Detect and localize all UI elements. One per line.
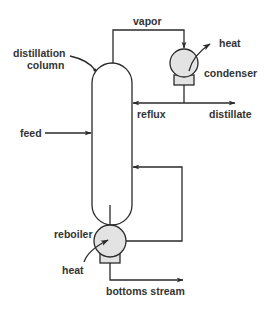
reboiler [94,225,126,257]
bottoms-stream-line [110,263,183,280]
condenser-heat-label: heat [219,37,241,49]
distillation-diagram: vapor distillation column heat condenser… [0,0,269,309]
reboiler-return-line [126,167,182,241]
reflux-label: reflux [137,108,166,120]
feed-label: feed [20,127,42,139]
condenser [170,49,198,77]
column-pointer-line [70,56,95,70]
column-pointer-dot [93,68,96,71]
reboiler-label: reboiler [54,228,93,240]
reboiler-heat-label: heat [62,264,84,276]
vapor-label: vapor [133,15,162,27]
distillate-label: distillate [209,108,252,120]
distillation-column [92,63,132,225]
condenser-label: condenser [204,67,257,79]
bottoms-stream-label: bottoms stream [106,285,185,297]
distillation-column-label-line2: column [27,59,64,71]
distillation-column-label-line1: distillation [13,47,66,59]
